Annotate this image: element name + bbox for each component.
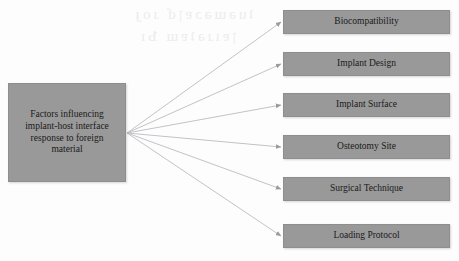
connector-to-implant-design xyxy=(127,64,281,133)
diagram-canvas: ʇuǝɯǝɔɐןɗ ɹoɟ ןɐıɹǝʇɐɯ Ƅı Factors influe… xyxy=(0,0,459,261)
branch-node-implant-design[interactable]: Implant Design xyxy=(283,52,450,76)
root-node-factors[interactable]: Factors influencing implant-host interfa… xyxy=(8,83,126,182)
root-node-label-line-4: material xyxy=(25,144,109,156)
branch-node-loading-protocol[interactable]: Loading Protocol xyxy=(283,224,450,248)
connector-to-implant-surface xyxy=(127,105,281,133)
branch-node-surgical-technique[interactable]: Surgical Technique xyxy=(283,177,450,201)
root-node-label-line-1: Factors influencing xyxy=(25,109,109,121)
root-node-label-line-3: response to foreign xyxy=(25,133,109,145)
root-node-label: Factors influencing implant-host interfa… xyxy=(25,109,109,155)
branch-node-label: Osteotomy Site xyxy=(337,141,396,153)
branch-node-implant-surface[interactable]: Implant Surface xyxy=(283,93,450,117)
connector-to-loading-protocol xyxy=(127,133,281,236)
branch-node-label: Surgical Technique xyxy=(330,183,403,195)
branch-node-label: Implant Surface xyxy=(336,99,397,111)
branch-node-label: Implant Design xyxy=(337,58,396,70)
branch-node-label: Biocompatibility xyxy=(334,16,398,28)
connector-to-osteotomy-site xyxy=(127,133,281,147)
connector-to-surgical-technique xyxy=(127,133,281,189)
root-node-label-line-2: implant-host interface xyxy=(25,121,109,133)
branch-node-biocompatibility[interactable]: Biocompatibility xyxy=(283,10,450,34)
branch-node-osteotomy-site[interactable]: Osteotomy Site xyxy=(283,135,450,159)
connector-to-biocompatibility xyxy=(127,22,281,133)
branch-node-label: Loading Protocol xyxy=(333,230,399,242)
